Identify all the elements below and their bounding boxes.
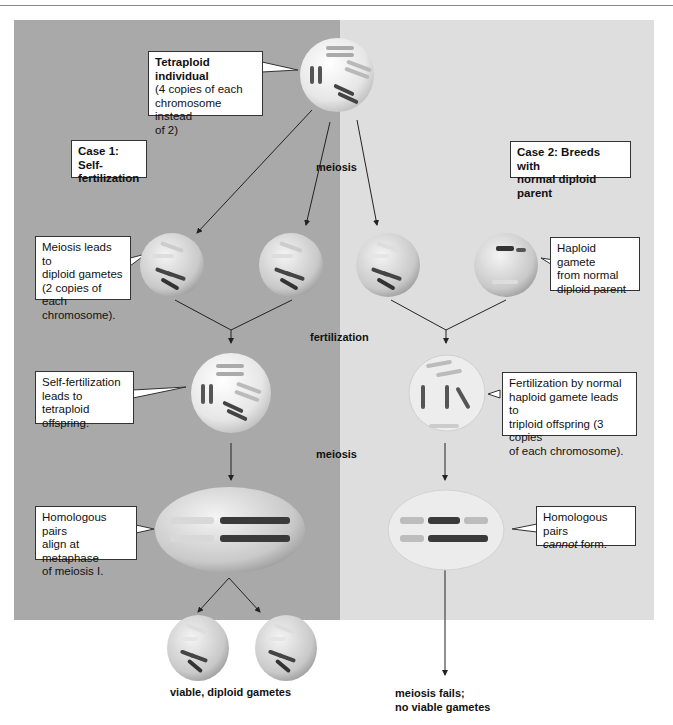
arrow-layer bbox=[0, 0, 673, 725]
diploid-gamete-cell bbox=[140, 233, 204, 297]
case1-header: Case 1: Self- fertilization bbox=[71, 140, 147, 178]
diploid-gametes-callout: Meiosis leads to diploid gametes (2 copi… bbox=[35, 236, 131, 300]
viable-gamete-cell bbox=[167, 615, 229, 681]
meiosis-label-mid: meiosis bbox=[316, 448, 357, 460]
homologous-align-callout: Homologous pairs align at metaphase of m… bbox=[35, 506, 137, 560]
meiosis-label-top: meiosis bbox=[316, 161, 357, 173]
case2-header: Case 2: Breeds with normal diploid paren… bbox=[510, 141, 631, 178]
diploid-gamete-cell bbox=[356, 233, 420, 297]
fertilization-label: fertilization bbox=[310, 331, 369, 343]
tetraploid-offspring-cell bbox=[191, 353, 271, 433]
outcome-fails-label: meiosis fails; no viable gametes bbox=[395, 686, 490, 714]
metaphase-cell-triploid bbox=[388, 490, 504, 570]
outcome-viable-label: viable, diploid gametes bbox=[170, 686, 291, 698]
haploid-gamete-cell bbox=[474, 233, 538, 297]
triploid-callout: Fertilization by normal haploid gamete l… bbox=[502, 372, 637, 436]
haploid-gamete-callout: Haploid gamete from normal diploid paren… bbox=[550, 237, 640, 291]
tetraploid-cell bbox=[300, 38, 374, 112]
metaphase-cell-tetraploid bbox=[155, 487, 305, 573]
self-fertilization-callout: Self-fertilization leads to tetraploid o… bbox=[35, 371, 134, 424]
tetraploid-callout: Tetraploid individual (4 copies of each … bbox=[148, 51, 263, 116]
homologous-fail-callout: Homologous pairs cannot form. bbox=[536, 506, 636, 546]
viable-gamete-cell bbox=[255, 615, 317, 681]
diploid-gamete-cell bbox=[259, 233, 323, 297]
triploid-offspring-cell bbox=[409, 355, 485, 431]
